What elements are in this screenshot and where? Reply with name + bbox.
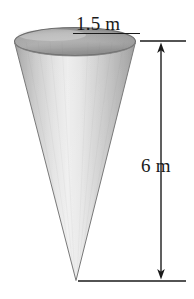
diameter-dimension: 1.5 m	[73, 13, 140, 34]
cone-diagram-figure: 1.5 m 6 m	[0, 0, 194, 299]
height-label: 6 m	[141, 155, 171, 176]
diameter-label: 1.5 m	[76, 13, 120, 34]
cone-diagram-canvas: 1.5 m 6 m	[0, 0, 194, 299]
cone-shape	[15, 28, 136, 281]
